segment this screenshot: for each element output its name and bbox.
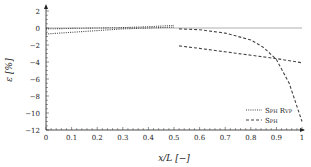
x-tick-label: 0 [44, 134, 48, 142]
x-tick-label: 1 [300, 134, 304, 142]
x-tick-label: 0.9 [271, 134, 282, 142]
x-tick-label: 0.8 [245, 134, 256, 142]
y-tick-label: −4 [30, 59, 41, 67]
y-tick-label: −8 [30, 93, 40, 101]
plot-area [46, 25, 302, 121]
x-tick-label: 0.6 [194, 134, 206, 142]
y-tick-label: −10 [25, 110, 40, 118]
line-chart: 00.10.20.30.40.50.60.70.80.91 20−2−4−6−8… [0, 0, 311, 167]
legend: Sph RvpSph [246, 107, 293, 125]
x-axis-label: x/L [−] [158, 153, 190, 163]
y-tick-label: 2 [36, 8, 40, 16]
x-axis: 00.10.20.30.40.50.60.70.80.91 [44, 127, 305, 142]
y-tick-label: −2 [30, 42, 40, 50]
y-axis-arrow-icon [44, 4, 48, 9]
x-axis-arrow-icon [300, 128, 305, 132]
y-tick-label: −12 [25, 127, 40, 135]
x-tick-label: 0.7 [220, 134, 231, 142]
y-tick-label: −6 [30, 76, 41, 84]
x-tick-label: 0.4 [143, 134, 155, 142]
legend-label: Sph Rvp [265, 107, 293, 115]
x-tick-label: 0.2 [92, 134, 103, 142]
y-tick-label: 0 [36, 25, 40, 33]
x-tick-label: 0.5 [168, 134, 179, 142]
y-axis-label: ε [%] [4, 58, 14, 82]
legend-label: Sph [265, 117, 278, 125]
x-tick-label: 0.3 [117, 134, 128, 142]
x-tick-label: 0.1 [66, 134, 77, 142]
series-line-sph [179, 46, 302, 63]
y-axis: 20−2−4−6−8−10−12 [25, 4, 49, 135]
